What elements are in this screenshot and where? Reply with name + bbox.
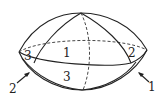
label-pointer-left: 2 <box>9 82 17 96</box>
diagram-svg: 3 1 2 3 2 1 <box>0 0 163 99</box>
meridian-back-dashed <box>81 13 90 90</box>
label-region-bottom: 3 <box>63 70 71 84</box>
lens-diagram: 3 1 2 3 2 1 <box>0 0 163 99</box>
label-region-left: 3 <box>24 49 32 63</box>
meridian-left <box>34 13 81 63</box>
inner-bottom-arc-right <box>82 62 136 90</box>
label-region-right: 2 <box>128 46 136 60</box>
label-pointer-right: 1 <box>148 80 156 94</box>
label-region-center: 1 <box>63 46 71 60</box>
